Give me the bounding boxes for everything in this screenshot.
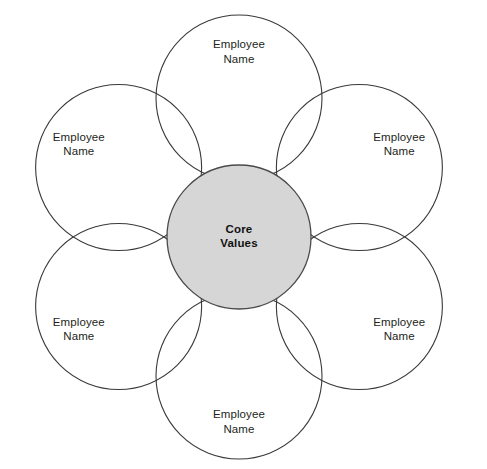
petal-top[interactable] [156,15,322,181]
core-values-line-1: Core [179,222,299,236]
core-values-label: Core Values [179,222,299,250]
petal-bottom[interactable] [156,293,322,459]
core-values-line-2: Values [179,236,299,250]
core-values-diagram: EmployeeNameEmployeeNameEmployeeNameEmpl… [0,0,487,469]
